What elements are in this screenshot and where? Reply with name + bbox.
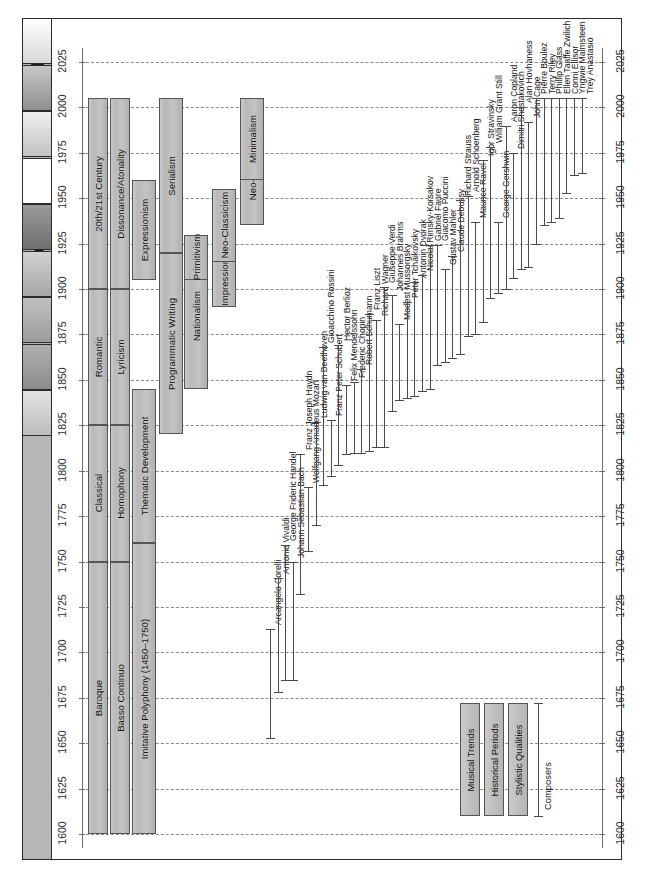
year-label-right-1950: 1950: [614, 183, 626, 211]
timeline-bar[interactable]: Programmatic Writing: [159, 253, 183, 435]
timeline-bar[interactable]: Expressionism: [132, 180, 156, 280]
composer-lifespan[interactable]: [490, 147, 491, 298]
timeline-bar[interactable]: Neo-Classicism: [212, 189, 236, 262]
composer-lifespan[interactable]: [376, 320, 377, 447]
timeline-bar[interactable]: Baroque: [88, 562, 108, 834]
timeline-bar[interactable]: Thematic Development: [132, 389, 156, 543]
composer-lifespan[interactable]: [285, 545, 286, 679]
composer-lifespan[interactable]: [384, 287, 385, 447]
composer-lifespan[interactable]: [422, 275, 423, 391]
timeline-bar[interactable]: Classical: [88, 425, 108, 561]
composer-lifespan-cap-birth: [547, 222, 556, 223]
composer-lifespan[interactable]: [452, 256, 453, 358]
year-tick-left-2000: [79, 107, 85, 108]
composer-lifespan[interactable]: [331, 420, 332, 476]
year-tick-right-1875: [599, 334, 605, 335]
composer-lifespan[interactable]: [536, 98, 537, 243]
year-tick-right-1800: [599, 471, 605, 472]
composer-lifespan[interactable]: [521, 107, 522, 269]
composer-lifespan[interactable]: [544, 98, 545, 225]
timeline-bar[interactable]: 20th/21st Century: [88, 98, 108, 289]
timeline-bar[interactable]: Homophony: [110, 425, 130, 561]
composer-lifespan-cap-death: [327, 420, 336, 421]
year-tick-right-1650: [599, 743, 605, 744]
composer-name: Trey Anastasio: [585, 38, 595, 95]
composer-lifespan[interactable]: [574, 98, 575, 174]
composer-lifespan[interactable]: [498, 222, 499, 293]
composer-lifespan[interactable]: [323, 347, 324, 485]
composer-lifespan[interactable]: [483, 160, 484, 322]
composer-lifespan[interactable]: [270, 629, 271, 738]
composer-lifespan[interactable]: [551, 98, 552, 222]
composer-lifespan[interactable]: [506, 126, 507, 289]
composer-lifespan[interactable]: [407, 302, 408, 398]
timeline-bar[interactable]: Lyricism: [110, 289, 130, 425]
composer-lifespan[interactable]: [559, 98, 560, 218]
composer-lifespan[interactable]: [414, 282, 415, 396]
composer-lifespan-cap-death: [456, 200, 465, 201]
composer-lifespan-cap-birth: [479, 322, 488, 323]
composer-lifespan-cap-birth: [517, 269, 526, 270]
composer-lifespan[interactable]: [566, 98, 567, 192]
year-label-right-1625: 1625: [614, 774, 626, 802]
composer-lifespan-cap-birth: [327, 476, 336, 477]
composer-lifespan[interactable]: [316, 422, 317, 526]
composer-lifespan[interactable]: [308, 487, 309, 551]
timeline-bar[interactable]: Romantic: [88, 289, 108, 425]
composer-lifespan-cap-birth: [562, 193, 571, 194]
year-label-right-2000: 2000: [614, 92, 626, 120]
composer-lifespan-cap-birth: [433, 365, 442, 366]
composer-lifespan[interactable]: [460, 200, 461, 354]
composer-lifespan[interactable]: [437, 245, 438, 365]
gridline-1675: [86, 698, 598, 699]
timeline-bar[interactable]: Dissonance/Atonality: [110, 98, 130, 289]
timeline-bar-label: Romantic: [93, 337, 104, 378]
year-tick-right-1975: [599, 153, 605, 154]
timeline-bar[interactable]: Basso Continuo: [110, 562, 130, 834]
composer-lifespan-cap-death: [410, 282, 419, 283]
composer-lifespan[interactable]: [445, 269, 446, 362]
year-label-left-1950: 1950: [56, 183, 68, 211]
composer-lifespan[interactable]: [399, 324, 400, 400]
composer-lifespan[interactable]: [430, 245, 431, 389]
year-label-left-2025: 2025: [56, 47, 68, 75]
composer-lifespan[interactable]: [369, 314, 370, 450]
timeline-bar-label: Lyricism: [115, 340, 126, 375]
timeline-bar[interactable]: Imitative Polyphony (1450–1750): [132, 543, 156, 834]
composer-lifespan[interactable]: [513, 153, 514, 278]
timeline-bar[interactable]: Minimalism: [240, 98, 264, 180]
composer-lifespan[interactable]: [338, 345, 339, 465]
composer-lifespan[interactable]: [300, 454, 301, 594]
legend-swatch-0: Musical Trends: [460, 703, 480, 816]
composer-lifespan[interactable]: [468, 196, 469, 336]
composer-lifespan[interactable]: [346, 385, 347, 454]
composer-lifespan-cap-death: [380, 287, 389, 288]
composer-lifespan-cap-birth: [403, 398, 412, 399]
year-tick-right-1775: [599, 516, 605, 517]
legend-swatch-2: Stylistic Qualities: [508, 703, 528, 816]
timeline-bar-label: Baroque: [93, 680, 104, 716]
composer-lifespan[interactable]: [528, 122, 529, 267]
composer-lifespan[interactable]: [392, 295, 393, 411]
composer-lifespan-cap-birth: [380, 447, 389, 448]
timeline-bar[interactable]: Primitivism: [184, 235, 208, 280]
timeline-bar-label: Minimalism: [247, 115, 258, 163]
year-tick-left-1725: [79, 607, 85, 608]
composer-lifespan[interactable]: [361, 369, 362, 453]
year-label-left-1775: 1775: [56, 501, 68, 529]
year-label-left-1750: 1750: [56, 547, 68, 575]
composer-lifespan[interactable]: [354, 382, 355, 453]
composer-lifespan[interactable]: [582, 98, 583, 172]
composer-name: William Grant Still: [494, 76, 504, 144]
year-label-right-1825: 1825: [614, 410, 626, 438]
year-label-right-1800: 1800: [614, 456, 626, 484]
composer-lifespan[interactable]: [293, 562, 294, 680]
year-tick-left-1775: [79, 516, 85, 517]
composer-lifespan-cap-birth: [464, 336, 473, 337]
composer-lifespan[interactable]: [278, 578, 279, 692]
gridline-1750: [86, 562, 598, 563]
year-tick-right-1900: [599, 289, 605, 290]
composer-lifespan[interactable]: [475, 222, 476, 335]
timeline-bar[interactable]: Serialism: [159, 98, 183, 252]
composer-lifespan-cap-birth: [578, 173, 587, 174]
